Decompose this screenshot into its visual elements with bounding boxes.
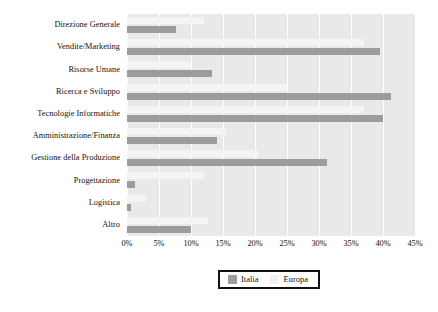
x-tick-label: 30% (311, 239, 326, 249)
bar-group (127, 103, 415, 125)
legend-label: Italia (241, 275, 258, 284)
legend-item[interactable]: Italia (228, 275, 258, 284)
bar-group (127, 81, 415, 103)
x-tick-label: 25% (279, 239, 294, 249)
bar-italia (127, 26, 176, 33)
bar-italia (127, 159, 327, 166)
category-label: Tecnologie Informatiche (0, 109, 120, 118)
x-tick-label: 20% (247, 239, 262, 249)
bar-europa (127, 128, 226, 135)
bar-europa (127, 84, 287, 91)
bar-italia (127, 93, 391, 100)
bar-group (127, 14, 415, 36)
x-tick-label: 0% (121, 239, 132, 249)
category-label: Risorse Umane (0, 65, 120, 74)
value-axis: 0%5%10%15%20%25%30%35%40%45% (127, 236, 415, 256)
legend-swatch-icon (228, 275, 237, 284)
category-label: Ricerca e Sviluppo (0, 87, 120, 96)
bar-italia (127, 181, 135, 188)
bar-italia (127, 115, 383, 122)
bar-europa (127, 195, 146, 202)
bar-europa (127, 172, 204, 179)
bar-europa (127, 61, 191, 68)
category-label: Logistica (0, 198, 120, 207)
category-label: Direzione Generale (0, 20, 120, 29)
category-label: Altro (0, 220, 120, 229)
bar-group (127, 214, 415, 236)
bar-europa (127, 217, 208, 224)
x-tick-label: 40% (375, 239, 390, 249)
x-tick-label: 15% (215, 239, 230, 249)
category-label: Amministrazione/Finanza (0, 131, 120, 140)
bar-group (127, 192, 415, 214)
bar-group (127, 125, 415, 147)
x-tick-label: 35% (343, 239, 358, 249)
chart-legend: ItaliaEuropa (218, 270, 320, 289)
category-label: Progettazione (0, 176, 120, 185)
bar-group (127, 58, 415, 80)
bar-group (127, 147, 415, 169)
bar-europa (127, 17, 204, 24)
bar-italia (127, 70, 212, 77)
bar-italia (127, 226, 191, 233)
bar-group (127, 169, 415, 191)
category-label: Vendite/Marketing (0, 42, 120, 51)
bar-italia (127, 48, 380, 55)
legend-swatch-icon (270, 275, 279, 284)
bar-group (127, 36, 415, 58)
plot-area (127, 14, 415, 236)
bar-europa (127, 106, 364, 113)
legend-item[interactable]: Europa (270, 275, 308, 284)
x-tick-label: 45% (407, 239, 422, 249)
category-label: Gestione della Produzione (0, 153, 120, 162)
bar-italia (127, 204, 131, 211)
bar-italia (127, 137, 217, 144)
bar-europa (127, 150, 258, 157)
x-tick-label: 10% (183, 239, 198, 249)
bar-europa (127, 39, 364, 46)
category-axis: Direzione GeneraleVendite/MarketingRisor… (0, 14, 124, 236)
legend-label: Europa (283, 275, 308, 284)
bar-chart: Direzione GeneraleVendite/MarketingRisor… (0, 0, 438, 312)
x-tick-label: 5% (153, 239, 164, 249)
